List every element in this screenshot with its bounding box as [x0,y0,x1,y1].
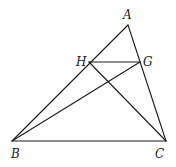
segment-bg [12,62,140,141]
geometry-diagram: A H G B C [0,0,176,167]
label-g: G [143,55,153,69]
label-h: H [75,55,87,69]
label-a: A [122,8,132,22]
segment-ac [128,25,166,141]
segment-ab [12,25,128,141]
segment-hc [89,62,166,141]
label-c: C [155,147,164,161]
label-b: B [10,147,20,161]
